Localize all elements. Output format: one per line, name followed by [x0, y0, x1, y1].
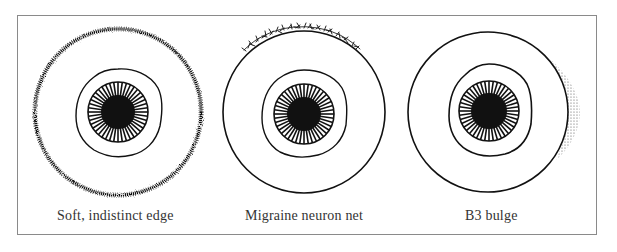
pupil [101, 95, 135, 129]
caption-soft-edge: Soft, indistinct edge [57, 208, 174, 224]
iris-panel-soft-edge [33, 27, 203, 197]
iris-panel-neuron-net [223, 23, 385, 193]
iris-panel-b3-bulge [408, 32, 580, 192]
b3-bulge-stipple [551, 60, 580, 160]
caption-neuron-net: Migraine neuron net [245, 208, 363, 224]
pupil [471, 93, 507, 129]
caption-b3-bulge: B3 bulge [465, 208, 518, 224]
neuron-net-marks [242, 23, 360, 51]
pupil [287, 97, 321, 131]
